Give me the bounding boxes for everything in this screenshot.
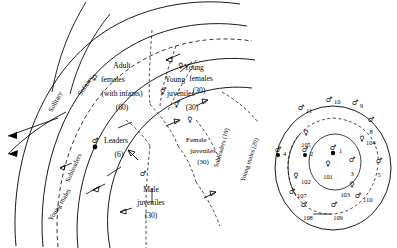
marker-11-icon: ♂ [298,103,305,112]
female-juveniles-symbol-icon: ♀ [187,115,192,124]
individual-104-label: 104 [366,139,376,146]
hermaphrodite-symbol-icon: ⚥ [160,87,167,96]
marker-110-icon: ♂ [355,191,362,200]
young-juveniles-symbol2-icon: ⚥ [174,100,181,109]
young-females-count: (30) [193,86,206,95]
marker-1-dot-icon [331,151,335,155]
individual-9-label: 9 [360,102,363,109]
marker-109-icon: ♂ [331,200,338,209]
marker-103-icon: ♀ [349,180,354,189]
male-juveniles-line2: juveniles [136,198,164,207]
female-juveniles-line1: Female [186,136,207,144]
diagram-canvas: Solitary Solitary Subleaders Young males… [0,0,397,248]
individual-1-label: 1 [339,147,342,154]
individual-110-label: 110 [363,196,372,203]
leader-dot-icon [93,145,98,150]
leader-symbol-icon: ♂ [92,136,99,145]
individual-103-label: 103 [340,191,350,198]
marker-4-icon: ♂ [275,145,282,154]
leaders-line1: Leaders [104,136,128,145]
individual-2-label: 2 [310,150,313,157]
individual-3-label: 3 [350,170,353,177]
marker-107-icon: ♂ [289,187,296,196]
young-juveniles-count: (30) [186,103,199,112]
individual-102-label: 102 [301,178,311,185]
leaders-count: (6) [115,150,124,159]
young-females-symbol-icon: ♀ [178,61,183,70]
marker-9-icon: ♂ [352,98,359,107]
individual-105-label: 105 [301,141,311,148]
marker-101-icon: ♀ [325,159,330,168]
marker-105-icon: ♀ [303,128,308,137]
marker-102-icon: ♀ [293,171,298,180]
young-females-line1: Young [184,63,204,72]
male-juveniles-line1: Male [143,185,159,194]
individual-109-label: 109 [333,214,343,221]
adult-females-line3: (with infants) [101,89,143,98]
marker-104-icon: ♀ [359,134,364,143]
individual-108-label: 108 [303,214,313,221]
male-juveniles-count: (30) [145,211,158,220]
female-juveniles-count: (30) [197,158,209,166]
young-females-line2: females [189,74,213,83]
individual-8-label: 8 [369,128,372,135]
marker-8-icon: ♂ [368,115,375,124]
female-juveniles-line2: juveniles [189,147,216,155]
marker-108-icon: ♂ [301,200,308,209]
marker-4-dot-icon [276,153,280,157]
marker-3-icon: ♂ [349,155,356,164]
individual-10-label: 10 [334,98,340,105]
individual-101-label: 101 [323,173,333,180]
individual-5-label: 5 [377,171,380,178]
individual-107-label: 107 [297,192,307,199]
marker-10-icon: ♂ [326,95,333,104]
adult-females-line2: females [101,75,125,84]
young-juveniles-line2: juveniles [166,89,194,98]
young-juveniles-line1: Young [165,75,185,84]
marker-1-icon: ♂ [330,143,337,152]
figure-root: Solitary Solitary Subleaders Young males… [0,0,397,248]
adult-females-line1: Adult [113,61,131,70]
male-juveniles-symbol-icon: ♂ [140,169,147,178]
marker-2-dot-icon [303,153,307,157]
female-symbol-icon: ♀ [92,73,97,82]
individual-11-label: 11 [306,107,312,114]
marker-5-icon: ♂ [376,156,383,165]
adult-females-count: (60) [116,103,129,112]
